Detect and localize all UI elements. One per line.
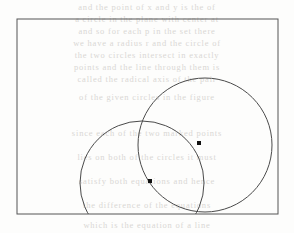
lower-intersection-point bbox=[148, 179, 152, 183]
bounding-rectangle bbox=[17, 19, 278, 214]
left-circle bbox=[80, 121, 204, 233]
upper-intersection-point bbox=[197, 141, 201, 145]
right-circle bbox=[138, 78, 272, 212]
figure-page: and the point of x and y is the ofa circ… bbox=[0, 0, 294, 233]
circles-group bbox=[80, 78, 272, 233]
geometry-figure bbox=[0, 0, 294, 233]
